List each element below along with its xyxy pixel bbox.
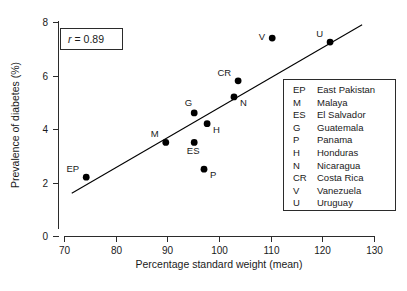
y-axis-title: Prevalence of diabetes (%) [9,62,21,188]
data-point-label: U [316,28,323,39]
data-point-marker [235,77,242,84]
data-point-marker [201,166,208,173]
data-point-label: H [213,124,220,135]
legend-item-name: Panama [317,134,353,145]
legend-item-code: V [293,185,300,196]
figure-container: 02468 Prevalence of diabetes (%) 7080901… [0,0,407,291]
legend-item-name: Costa Rica [317,172,364,183]
x-tick-label: 120 [314,245,331,256]
data-point-label: M [151,128,159,139]
legend-item-name: East Pakistan [317,84,375,95]
data-point-label: P [210,169,216,180]
legend-item-code: M [293,97,301,108]
legend: EPEast PakistanMMalayaESEl SalvadorGGuat… [284,80,396,211]
data-point-label: V [259,31,266,42]
legend-item-code: H [293,147,300,158]
data-point: V [259,31,276,42]
legend-item-name: Vanezuela [317,185,362,196]
legend-item: ESEl Salvador [293,109,366,120]
legend-item-code: ES [293,109,306,120]
data-point-label: G [185,97,192,108]
x-tick-label: 80 [111,245,123,256]
x-tick-group: 708090100110120130 [59,237,383,257]
data-point: ES [187,139,200,156]
legend-item-name: El Salvador [317,109,366,120]
legend-item-name: Uruguay [317,197,353,208]
y-tick-label: 0 [42,231,48,242]
correlation-symbol: r [68,33,72,45]
legend-item-code: P [293,134,299,145]
x-tick-label: 110 [264,245,280,256]
legend-item-name: Malaya [317,97,348,108]
x-tick-label: 130 [366,245,383,256]
y-tick-label: 4 [42,124,48,135]
legend-item-name: Nicaragua [317,160,361,171]
data-point: H [204,120,220,134]
data-point-marker [204,120,211,127]
data-point-label: CR [217,67,231,78]
data-point: P [201,166,217,180]
y-tick-group: 02468 [42,17,58,242]
data-point: M [151,128,169,145]
legend-item-name: Guatemala [317,122,364,133]
correlation-annotation: r= 0.89 [61,29,123,50]
data-point: U [316,28,333,45]
legend-item: EPEast Pakistan [293,84,375,95]
scatter-plot: 02468 Prevalence of diabetes (%) 7080901… [0,0,407,291]
x-tick-label: 70 [59,245,71,256]
correlation-value: = 0.89 [75,33,105,45]
data-point-marker [327,39,334,46]
data-point-marker [231,94,238,101]
legend-item-code: G [293,122,300,133]
data-point: G [185,97,198,116]
y-axis: 02468 Prevalence of diabetes (%) [9,17,59,242]
x-axis-title: Percentage standard weight (mean) [136,258,303,270]
y-tick-label: 6 [42,71,48,82]
data-point: CR [217,67,241,84]
x-axis: 708090100110120130 Percentage standard w… [59,237,383,271]
y-tick-label: 8 [42,17,48,28]
x-tick-label: 100 [211,245,228,256]
y-tick-label: 2 [42,178,48,189]
data-point-marker [162,139,169,146]
data-point: EP [67,163,90,180]
data-point-marker [83,174,90,181]
legend-item-code: CR [293,172,307,183]
data-point-label: ES [187,145,200,156]
data-point-marker [191,110,198,117]
legend-item: CRCosta Rica [293,172,364,183]
data-point-label: N [240,97,247,108]
data-point-marker [269,35,276,42]
legend-item-code: EP [293,84,306,95]
legend-item-code: U [293,197,300,208]
legend-item-code: N [293,160,300,171]
x-tick-label: 90 [162,245,174,256]
legend-item-name: Honduras [317,147,358,158]
data-point-label: EP [67,163,80,174]
